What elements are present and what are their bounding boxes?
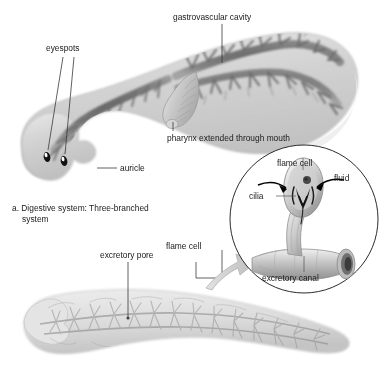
- label-eyespots: eyespots: [46, 43, 80, 53]
- label-pharynx: pharynx extended through mouth: [167, 133, 290, 143]
- caption-line-1: a. Digestive system: Three-branched: [12, 203, 149, 213]
- label-flame-cell-pointer: flame cell: [166, 241, 202, 251]
- mouth-opening: [166, 119, 178, 128]
- label-auricle: auricle: [120, 163, 145, 173]
- flame-cell-inset: flame cell fluid cilia excretory canal: [206, 145, 378, 293]
- label-excretory-pore: excretory pore: [100, 250, 154, 260]
- label-inset-flame-cell: flame cell: [277, 158, 313, 168]
- figure-canvas: eyespots auricle gastrovascular cavity p…: [0, 0, 385, 368]
- label-excretory-canal: excretory canal: [262, 273, 319, 283]
- label-cilia: cilia: [249, 191, 264, 201]
- caption-line-2: system: [22, 214, 49, 224]
- planarian-figure: eyespots auricle gastrovascular cavity p…: [0, 0, 385, 368]
- label-fluid: fluid: [334, 173, 350, 183]
- leader-flame-cell: [196, 250, 222, 278]
- label-gastrovascular-cavity: gastrovascular cavity: [173, 12, 252, 22]
